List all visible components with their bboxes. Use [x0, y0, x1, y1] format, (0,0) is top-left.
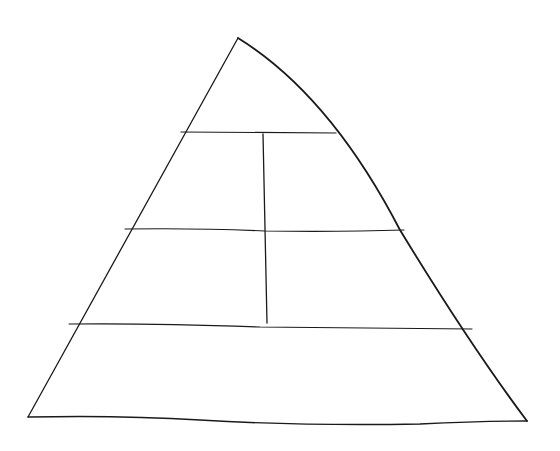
tier-2-right-region: [263, 133, 404, 230]
tier-3-left-region: [69, 229, 267, 325]
pyramid-diagram: [0, 0, 560, 451]
tier-3-right-region: [265, 230, 472, 329]
pyramid-svg: [0, 0, 560, 451]
tier-4-base-region: [28, 324, 527, 421]
tier-2-left-region: [125, 132, 265, 229]
